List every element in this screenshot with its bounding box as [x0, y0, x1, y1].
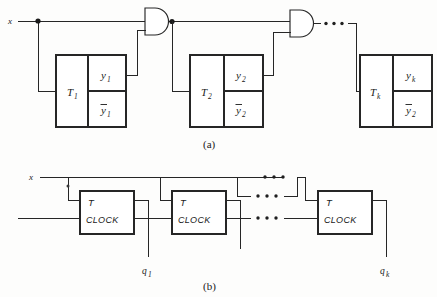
- wire-x-branch-t1: [38, 21, 56, 91]
- t-block-2-y-sub: 2: [242, 75, 246, 84]
- t-block-1-y-sub: 1: [107, 75, 111, 84]
- wire-x-to-ff2: [160, 177, 172, 200]
- figure-root: T 1 y 1 y 1 T 2 y 2 y 2 T k y k: [0, 0, 437, 297]
- part-a-group: T 1 y 1 y 1 T 2 y 2 y 2 T k y k: [7, 8, 432, 151]
- wire-to-blockk: [348, 24, 360, 92]
- wire-ff2-out: [226, 200, 240, 248]
- output-sub-q1: 1: [148, 270, 152, 279]
- ellipsis-part-b-row3: [256, 216, 277, 219]
- input-label-x-b: x: [28, 172, 33, 182]
- t-block-2-y-label: y: [235, 69, 241, 81]
- t-block-1-ybar-label: y: [100, 104, 106, 116]
- wire-y1-to-gate1: [126, 30, 145, 75]
- t-block-1-t-label: T: [67, 86, 74, 98]
- and-gate-2: [290, 10, 314, 37]
- and-gate-1: [145, 8, 169, 35]
- t-block-k-ybar-label: y: [405, 104, 411, 116]
- flipflop-1-clock-label: CLOCK: [86, 215, 119, 225]
- output-label-qk: q: [380, 266, 385, 276]
- wire-ff1-out-q1: [134, 200, 148, 256]
- flipflop-k-clock-label: CLOCK: [324, 215, 357, 225]
- caption-b: (b): [203, 280, 216, 293]
- t-block-2-ybar-sub: 2: [242, 110, 246, 119]
- junction-dot-x-b: [67, 185, 70, 188]
- wire-gate1-branch-t2: [172, 22, 190, 92]
- ellipsis-part-b-row1: [263, 175, 284, 178]
- wire-y2-to-gate2: [263, 32, 290, 75]
- caption-a: (a): [203, 138, 216, 151]
- output-sub-qk: k: [386, 270, 390, 279]
- circuit-diagram-svg: T 1 y 1 y 1 T 2 y 2 y 2 T k y k: [0, 0, 437, 297]
- input-label-x-a: x: [7, 16, 12, 26]
- wire-rail2-right: [284, 177, 297, 196]
- wire-x-to-ff1: [68, 177, 80, 200]
- t-block-1-t-sub: 1: [74, 92, 78, 101]
- t-block-k-ybar-sub: 2: [412, 110, 416, 119]
- t-block-1-ybar-sub: 1: [107, 110, 111, 119]
- junction-dot-x1: [35, 18, 40, 23]
- output-label-q1: q: [142, 266, 147, 276]
- t-block-2-t-label: T: [201, 86, 208, 98]
- t-block-1-y-label: y: [100, 69, 106, 81]
- wire-ffk-out-qk: [372, 200, 386, 256]
- t-block-2-ybar-label: y: [235, 104, 241, 116]
- part-b-group: x: [18, 172, 390, 293]
- ellipsis-part-b-row2: [256, 194, 277, 197]
- t-block-k-t-label: T: [370, 86, 377, 98]
- t-block-k-y-label: y: [405, 69, 411, 81]
- wire-x-to-ffk: [297, 177, 318, 200]
- ellipsis-part-a: [324, 22, 343, 25]
- t-block-2-t-sub: 2: [208, 92, 212, 101]
- flipflop-2-clock-label: CLOCK: [178, 215, 211, 225]
